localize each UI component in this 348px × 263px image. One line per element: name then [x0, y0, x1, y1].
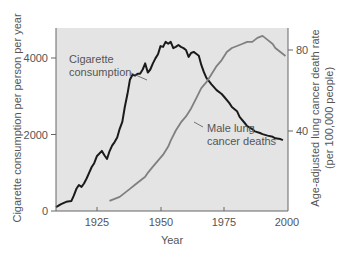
x-tick-2000: 2000: [275, 216, 299, 228]
x-tick-1925: 1925: [85, 216, 109, 228]
y-right-axis-label-line1: Age-adjusted lung cancer death rate: [309, 29, 321, 206]
series-label-cigarette-line2: consumption: [69, 66, 131, 78]
series-label-cigarette-line1: Cigarette: [69, 53, 114, 65]
x-tick-1950: 1950: [149, 216, 173, 228]
y-left-axis-label: Cigarette consumption per person per yea…: [11, 13, 23, 222]
y-left-tick-2000: 2000: [24, 129, 48, 141]
line-chart: 0 2000 4000 40 80 1925 1950 1975 2000 Ye…: [0, 0, 348, 263]
x-axis-label: Year: [161, 234, 184, 246]
y-right-axis-label-line2: (per 100,000 people): [323, 67, 335, 169]
series-label-lung-line1: Male lung: [207, 122, 255, 134]
y-left-tick-0: 0: [42, 205, 48, 217]
chart-figure: 0 2000 4000 40 80 1925 1950 1975 2000 Ye…: [0, 0, 348, 263]
y-right-tick-80: 80: [296, 44, 308, 56]
y-right-tick-40: 40: [296, 125, 308, 137]
x-tick-1975: 1975: [212, 216, 236, 228]
series-label-lung-line2: cancer deaths: [207, 135, 277, 147]
y-left-tick-4000: 4000: [24, 52, 48, 64]
